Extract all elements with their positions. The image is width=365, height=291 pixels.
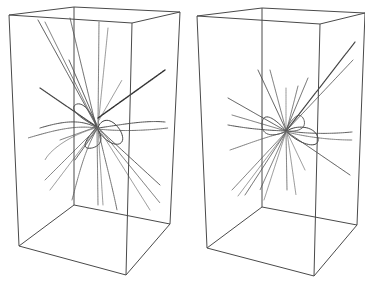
trajectory-line (69, 60, 97, 125)
panel-left-3d-box (9, 7, 180, 275)
trajectory-line (232, 132, 286, 190)
box-edge (207, 248, 314, 276)
box-edge (126, 23, 132, 275)
box-edge (19, 246, 126, 275)
trajectory-line (98, 70, 165, 118)
box-edge (314, 225, 357, 276)
box-edge (126, 224, 170, 275)
trajectory-line (98, 122, 165, 128)
box-edge (262, 8, 365, 13)
trajectory-line (264, 132, 286, 200)
trajectory-line (98, 128, 168, 131)
trajectory-line (245, 132, 286, 195)
box-edge (9, 7, 74, 15)
trajectory-bundle (228, 42, 355, 200)
box-edge (74, 205, 170, 224)
box-edge (9, 15, 19, 246)
panel-right-3d-box (197, 8, 365, 276)
box-edge (314, 24, 320, 276)
trajectory-line (38, 20, 97, 127)
trajectory-line (286, 132, 287, 190)
trajectory-line (286, 42, 355, 131)
trajectory-line (286, 60, 353, 131)
box-edge (197, 8, 262, 16)
box-edge (207, 207, 262, 248)
trajectory-figure (0, 0, 365, 291)
box-edge (132, 12, 180, 23)
trajectory-line (72, 129, 97, 200)
trajectory-line (98, 22, 99, 126)
box-edge (197, 16, 207, 248)
trajectory-line (97, 129, 98, 205)
box-edge (9, 15, 132, 23)
trajectory-bundle (28, 18, 168, 210)
trajectory-line (28, 127, 97, 138)
trajectory-line (99, 129, 150, 210)
box-edge (262, 207, 357, 225)
box-edge (19, 205, 74, 246)
box-edge (170, 12, 180, 224)
box-edge (197, 16, 320, 24)
box-edge (320, 13, 365, 24)
trajectory-line (45, 128, 96, 160)
box-edge (357, 13, 365, 225)
trajectory-line (98, 120, 123, 144)
trajectory-line (287, 78, 308, 128)
box-edge (74, 7, 180, 12)
trajectory-line (287, 131, 352, 133)
